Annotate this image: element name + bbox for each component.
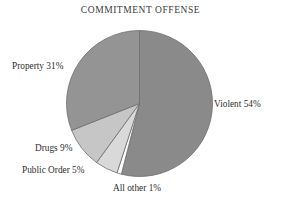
slice-label-drugs: Drugs 9% [35,143,72,153]
slice-label-property: Property 31% [12,61,63,71]
slice-label-all-other: All other 1% [113,183,161,193]
slice-label-violent: Violent 54% [214,99,261,109]
pie-slices-group [67,31,213,177]
pie-chart-figure: COMMITMENT OFFENSE Violent 54% Property … [0,0,281,211]
slice-label-public-order: Public Order 5% [22,165,84,175]
